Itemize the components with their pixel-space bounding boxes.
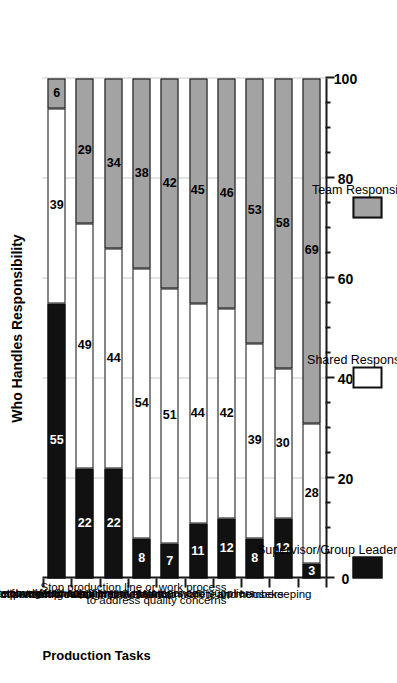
- bar-value-label: 38: [134, 167, 148, 180]
- bar-value-label: 6: [53, 87, 60, 100]
- value-tick-major: [325, 476, 334, 478]
- bar-segment-shared: 30: [274, 368, 292, 518]
- bar-segment-shared: 39: [47, 108, 65, 303]
- bar-segment-shared: 42: [217, 308, 235, 518]
- bar-value-label: 44: [191, 407, 205, 420]
- bar-segment-team: 46: [217, 78, 235, 308]
- chart-title: Who Handles Responsibility: [8, 78, 24, 578]
- value-tick-major: [325, 576, 334, 578]
- bar-value-label: 39: [247, 434, 261, 447]
- bar-value-label: 54: [134, 397, 148, 410]
- bar-segment-team: 53: [245, 78, 263, 343]
- bar-segment-sup: 11: [189, 523, 207, 578]
- bar-segment-shared: 44: [104, 248, 122, 468]
- value-tick-minor: [325, 151, 330, 153]
- value-tick-minor: [325, 301, 330, 303]
- bar-value-label: 3: [307, 564, 314, 577]
- bar-value-label: 22: [106, 517, 120, 530]
- bar-row: 124246: [217, 78, 235, 578]
- bar-value-label: 29: [77, 144, 91, 157]
- value-tick-minor: [325, 126, 330, 128]
- chart-legend: Supervisor/Group Leader ResponsibilitySh…: [352, 78, 394, 578]
- category-tick: [268, 578, 270, 587]
- bar-row: 32869: [302, 78, 320, 578]
- bar-segment-team: 38: [132, 78, 150, 268]
- bar-value-label: 49: [77, 339, 91, 352]
- bar-row: 75142: [160, 78, 178, 578]
- category-label-line: Maintain safety and housekeeping: [136, 587, 311, 600]
- bar-value-label: 44: [106, 352, 120, 365]
- bar-value-label: 12: [219, 542, 233, 555]
- bar-segment-shared: 39: [245, 343, 263, 538]
- category-axis-labels: Prepare and manage cost budgetsSet produ…: [42, 587, 325, 683]
- value-tick-label: 60: [337, 270, 353, 286]
- value-tick-label: 40: [337, 370, 353, 386]
- bar-segment-team: 34: [104, 78, 122, 248]
- bar-value-label: 34: [106, 157, 120, 170]
- legend-swatch: [352, 196, 382, 218]
- value-tick-minor: [325, 251, 330, 253]
- bar-segment-shared: 54: [132, 268, 150, 538]
- bar-value-label: 28: [304, 487, 318, 500]
- bar-value-label: 11: [191, 544, 204, 557]
- bar-segment-team: 45: [189, 78, 207, 303]
- category-tick: [240, 578, 242, 587]
- bar-value-label: 69: [304, 244, 318, 257]
- bar-row: 224434: [104, 78, 122, 578]
- bar-segment-team: 58: [274, 78, 292, 368]
- bar-row: 224929: [75, 78, 93, 578]
- bar-segment-sup: 55: [47, 303, 65, 578]
- value-tick-minor: [325, 526, 330, 528]
- bar-segment-team: 6: [47, 78, 65, 108]
- legend-label: Supervisor/Group Leader Responsibility: [257, 542, 397, 556]
- value-tick-minor: [325, 226, 330, 228]
- bar-value-label: 45: [191, 184, 205, 197]
- legend-item: Shared Responsibility: [352, 238, 382, 388]
- value-tick-minor: [325, 326, 330, 328]
- value-tick-label: 20: [337, 470, 353, 486]
- bar-segment-shared: 51: [160, 288, 178, 543]
- category-tick: [325, 578, 327, 587]
- value-tick-label: 0: [341, 570, 349, 586]
- bar-segment-team: 69: [302, 78, 320, 423]
- bar-segment-sup: 12: [217, 518, 235, 578]
- value-tick-major: [325, 276, 334, 278]
- bar-value-label: 51: [162, 409, 176, 422]
- bar-value-label: 42: [219, 407, 233, 420]
- bar-row: 114445: [189, 78, 207, 578]
- bar-value-label: 46: [219, 187, 233, 200]
- legend-label: Shared Responsibility: [307, 352, 397, 366]
- bar-value-label: 42: [162, 177, 176, 190]
- bar-segment-sup: 8: [132, 538, 150, 578]
- value-tick-minor: [325, 101, 330, 103]
- bar-segment-sup: 3: [302, 563, 320, 578]
- category-tick: [297, 578, 299, 587]
- chart-figure: Who Handles Responsibility Production Ta…: [0, 0, 397, 683]
- bar-segment-shared: 49: [75, 223, 93, 468]
- bar-row: 123058: [274, 78, 292, 578]
- legend-swatch: [352, 556, 382, 578]
- bar-row: 85438: [132, 78, 150, 578]
- value-tick-major: [325, 76, 334, 78]
- bar-value-label: 55: [49, 434, 63, 447]
- bar-value-label: 39: [49, 199, 63, 212]
- value-tick-major: [325, 376, 334, 378]
- bar-value-label: 22: [77, 517, 91, 530]
- bar-value-label: 30: [276, 437, 290, 450]
- legend-item: Team Responsibility: [352, 78, 382, 218]
- bar-value-label: 8: [138, 552, 145, 565]
- bar-segment-sup: 7: [160, 543, 178, 578]
- bar-segment-team: 42: [160, 78, 178, 288]
- value-tick-minor: [325, 501, 330, 503]
- value-tick-minor: [325, 201, 330, 203]
- legend-swatch: [352, 366, 382, 388]
- bar-segment-shared: 44: [189, 303, 207, 523]
- bar-value-label: 53: [247, 204, 261, 217]
- plot-area: 5539622492922443485438751421144451242468…: [42, 78, 325, 578]
- bar-row: 55396: [47, 78, 65, 578]
- value-tick-minor: [325, 451, 330, 453]
- value-tick-minor: [325, 401, 330, 403]
- bar-segment-sup: 22: [75, 468, 93, 578]
- value-tick-minor: [325, 426, 330, 428]
- bar-value-label: 7: [166, 554, 173, 567]
